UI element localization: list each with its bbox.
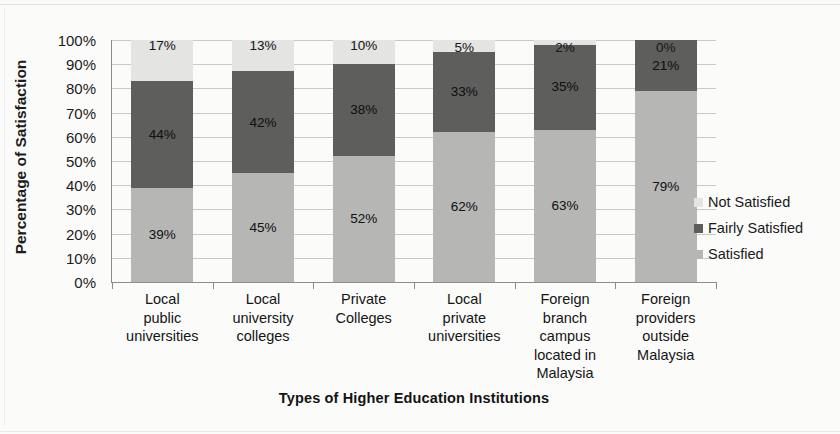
bar-segment-value-label: 44% — [149, 128, 176, 142]
x-axis-label-line: outside — [618, 327, 714, 346]
x-axis-label-line: campus — [517, 327, 613, 346]
bar-segment-value-label: 52% — [350, 212, 377, 226]
x-tick-mark — [716, 283, 717, 289]
chart-legend: Not SatisfiedFairly SatisfiedSatisfied — [694, 189, 834, 267]
bar-segment[interactable]: 39% — [131, 188, 193, 282]
x-axis-category-labels: LocalpublicuniversitiesLocaluniversityco… — [112, 290, 716, 382]
x-axis-label: Localpublicuniversities — [114, 290, 210, 346]
scan-edge-left — [4, 8, 5, 426]
x-axis-label-line: providers — [618, 309, 714, 328]
legend-item[interactable]: Fairly Satisfied — [694, 215, 834, 241]
x-axis-label-line: Foreign — [517, 290, 613, 309]
x-axis-label: Localprivateuniversities — [416, 290, 512, 346]
bar-segment[interactable]: 5% — [433, 40, 495, 52]
bar-segment-value-label: 45% — [249, 221, 276, 235]
x-axis-label-line: public — [114, 309, 210, 328]
x-axis-label-line: universities — [416, 327, 512, 346]
bar-segment-value-label: 0% — [635, 41, 697, 55]
scan-edge-bottom — [0, 431, 840, 432]
x-axis-label-line: universities — [114, 327, 210, 346]
bar-group[interactable]: 39%44%17% — [131, 40, 193, 282]
x-axis-label-line: colleges — [215, 327, 311, 346]
x-axis-label: Localuniversitycolleges — [215, 290, 311, 346]
y-tick-label-0: 0% — [34, 275, 96, 290]
legend-label: Satisfied — [708, 246, 764, 262]
y-axis-tick-labels: 0%10%20%30%40%50%60%70%80%90%100% — [34, 28, 104, 294]
bar-segment-value-label: 42% — [249, 116, 276, 130]
bar-segment-value-label: 13% — [249, 39, 276, 53]
bar-segment[interactable]: 62% — [433, 132, 495, 282]
bar-group[interactable]: 79%21%0% — [635, 40, 697, 282]
x-axis-label-line: Foreign — [618, 290, 714, 309]
bar-segment[interactable]: 42% — [232, 71, 294, 173]
y-tick-label-60: 60% — [34, 129, 96, 144]
bar-segment[interactable]: 17% — [131, 40, 193, 81]
bar-segment[interactable]: 63% — [534, 130, 596, 282]
x-tick-mark — [515, 283, 516, 289]
bar-group[interactable]: 52%38%10% — [333, 40, 395, 282]
y-tick-label-40: 40% — [34, 178, 96, 193]
y-tick-label-80: 80% — [34, 81, 96, 96]
x-axis-label: ForeignprovidersoutsideMalaysia — [618, 290, 714, 364]
bar-segment[interactable]: 52% — [333, 156, 395, 282]
scan-edge-top — [0, 4, 840, 5]
legend-item[interactable]: Not Satisfied — [694, 189, 834, 215]
x-axis-label-line: located in — [517, 346, 613, 365]
gridline-50 — [112, 161, 716, 162]
bar-segment[interactable]: 44% — [131, 81, 193, 187]
legend-swatch-icon — [694, 224, 703, 233]
bar-segment[interactable]: 10% — [333, 40, 395, 64]
bar-group[interactable]: 62%33%5% — [433, 40, 495, 282]
y-axis-title-text: Percentage of Satisfaction — [12, 60, 30, 255]
gridline-90 — [112, 64, 716, 65]
gridline-30 — [112, 209, 716, 210]
bar-segment[interactable]: 45% — [232, 173, 294, 282]
bar-group[interactable]: 63%35%2% — [534, 40, 596, 282]
y-tick-label-10: 10% — [34, 250, 96, 265]
bar-segment-value-label: 2% — [534, 41, 596, 55]
bar-segment[interactable]: 38% — [333, 64, 395, 156]
gridline-100 — [112, 40, 716, 41]
x-axis-label-line: Local — [114, 290, 210, 309]
y-tick-label-90: 90% — [34, 57, 96, 72]
x-axis-label-line: Private — [316, 290, 412, 309]
bar-segment[interactable]: 13% — [232, 40, 294, 71]
plot-area: 39%44%17%45%42%13%52%38%10%62%33%5%63%35… — [112, 40, 716, 282]
bar-segment[interactable]: 2% — [534, 40, 596, 45]
bar-group[interactable]: 45%42%13% — [232, 40, 294, 282]
bar-segment[interactable]: 79% — [635, 91, 697, 282]
bar-segment-value-label: 38% — [350, 103, 377, 117]
gridline-40 — [112, 185, 716, 186]
bar-segment-value-label: 35% — [551, 80, 578, 94]
bar-segment-value-label: 39% — [149, 228, 176, 242]
legend-swatch-icon — [694, 198, 703, 207]
gridline-60 — [112, 137, 716, 138]
bar-segment-value-label: 10% — [350, 39, 377, 53]
bar-segment[interactable]: 35% — [534, 45, 596, 130]
y-tick-label-70: 70% — [34, 105, 96, 120]
bar-segment[interactable]: 33% — [433, 52, 495, 132]
gridline-10 — [112, 258, 716, 259]
x-tick-mark — [615, 283, 616, 289]
x-axis-label-line: Malaysia — [517, 364, 613, 383]
gridline-20 — [112, 234, 716, 235]
x-tick-mark — [213, 283, 214, 289]
x-axis-label-line: university — [215, 309, 311, 328]
bar-segment-value-label: 33% — [451, 85, 478, 99]
bar-segment-value-label: 79% — [652, 180, 679, 194]
gridline-70 — [112, 113, 716, 114]
legend-label: Fairly Satisfied — [708, 220, 803, 236]
x-tick-mark — [414, 283, 415, 289]
y-tick-label-100: 100% — [34, 33, 96, 48]
x-axis-label-line: Colleges — [316, 309, 412, 328]
bar-segment-value-label: 5% — [433, 41, 495, 55]
bar-segment-value-label: 62% — [451, 200, 478, 214]
legend-label: Not Satisfied — [708, 194, 790, 210]
x-axis-label-line: Local — [215, 290, 311, 309]
bar-segment-value-label: 17% — [149, 39, 176, 53]
y-axis-title: Percentage of Satisfaction — [8, 28, 34, 286]
x-axis-label-line: private — [416, 309, 512, 328]
bar-segment-value-label: 63% — [551, 199, 578, 213]
legend-item[interactable]: Satisfied — [694, 241, 834, 267]
y-tick-label-30: 30% — [34, 202, 96, 217]
